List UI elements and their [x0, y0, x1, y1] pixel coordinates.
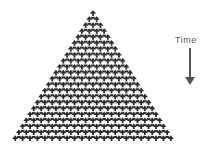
- down-arrow-icon: [183, 48, 197, 86]
- cellular-automaton-triangle: [0, 0, 210, 152]
- time-label: Time: [175, 35, 197, 45]
